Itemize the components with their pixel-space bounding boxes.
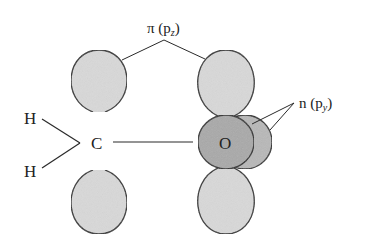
formaldehyde-orbital-diagram: H H C O π (pz) n (py) (0, 0, 368, 247)
carbon-bottom-lobe (71, 170, 127, 234)
hydrogen-bottom-label: H (24, 162, 36, 181)
diagram-canvas: H H C O π (pz) n (py) (0, 0, 368, 247)
oxygen-bottom-lobe (198, 168, 255, 234)
bonds (42, 119, 193, 168)
oxygen-top-lobe (198, 50, 255, 116)
carbon-label: C (91, 134, 102, 153)
oxygen-label: O (219, 134, 231, 153)
n-py-label: n (py) (299, 95, 332, 113)
pi-connector-lines (122, 40, 205, 60)
carbon-top-lobe (71, 50, 127, 112)
hydrogen-top-label: H (24, 109, 36, 128)
pi-pz-label: π (pz) (147, 20, 180, 38)
